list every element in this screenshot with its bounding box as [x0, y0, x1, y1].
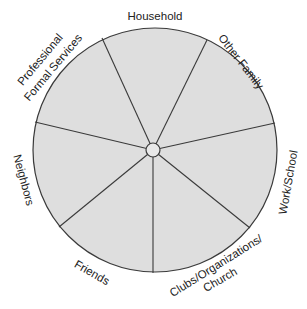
wheel-center-hub [146, 143, 160, 157]
segment-label-neighbors: Neighbors [11, 153, 36, 207]
social-network-wheel: Household Other Family Work/School Clubs… [0, 0, 307, 309]
segment-label-work-school: Work/School [277, 149, 300, 215]
segment-label-household: Household [128, 10, 183, 22]
